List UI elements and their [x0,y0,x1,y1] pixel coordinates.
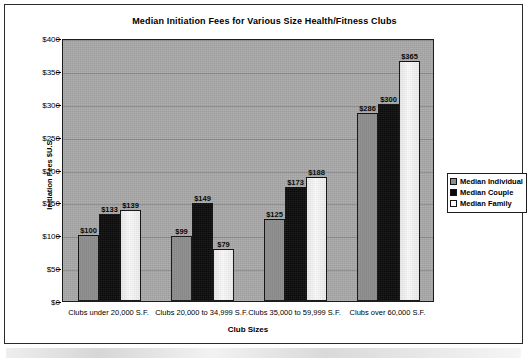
gridline [63,73,433,74]
bar-value-label: $149 [187,194,218,203]
x-axis-title: Club Sizes [62,325,434,334]
legend-item-label: Median Family [460,199,512,208]
legend-item[interactable]: Median Couple [450,187,523,198]
y-axis-tick-mark [56,171,61,172]
bar [378,104,399,301]
scan-artifact [6,348,521,358]
y-axis-tick-mark [56,236,61,237]
legend-item-label: Median Individual [460,177,523,186]
y-axis-tick-label: $150 [20,199,60,208]
bar-value-label: $188 [301,168,332,177]
bar-value-label: $365 [394,52,425,61]
y-axis-tick-mark [56,203,61,204]
chart-title: Median Initiation Fees for Various Size … [5,16,524,26]
chart-legend: Median IndividualMedian CoupleMedian Fam… [447,173,527,213]
bar [213,249,234,301]
figure-frame: Median Initiation Fees for Various Size … [4,4,523,344]
bar [171,236,192,301]
gridline [63,40,433,41]
y-axis-tick-mark [56,269,61,270]
legend-item-label: Median Couple [460,188,513,197]
legend-item[interactable]: Median Family [450,198,523,209]
bar [399,61,420,301]
y-axis-tick-label: $0 [20,298,60,307]
bar-value-label: $79 [208,240,239,249]
y-axis-tick-mark [56,105,61,106]
y-axis-tick-label: $250 [20,134,60,143]
bar [192,203,213,301]
bar [306,177,327,301]
legend-item[interactable]: Median Individual [450,176,523,187]
bar [99,214,120,301]
y-axis-tick-mark [56,39,61,40]
legend-swatch-icon [450,178,457,185]
bar-value-label: $139 [115,201,146,210]
plot-area: $100$133$139$99$149$79$125$173$188$286$3… [62,39,434,302]
bar [78,235,99,301]
y-axis-tick-label: $200 [20,167,60,176]
legend-swatch-icon [450,200,457,207]
legend-swatch-icon [450,189,457,196]
x-axis-category-label: Clubs over 60,000 S.F. [333,308,442,317]
bar [264,219,285,301]
bar [285,187,306,301]
y-axis-tick-label: $50 [20,265,60,274]
y-axis-tick-label: $350 [20,68,60,77]
bar [357,113,378,301]
y-axis-tick-mark [56,138,61,139]
y-axis-tick-label: $100 [20,232,60,241]
bar [120,210,141,301]
y-axis-tick-label: $300 [20,101,60,110]
y-axis-tick-mark [56,72,61,73]
y-axis-tick-label: $400 [20,35,60,44]
y-axis-tick-mark [56,302,61,303]
